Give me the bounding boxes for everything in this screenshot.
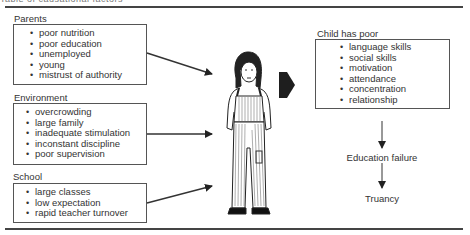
diagram-graphics xyxy=(0,0,470,235)
parents-arrow-icon xyxy=(147,53,212,74)
school-arrow-icon xyxy=(147,186,212,203)
block-arrow-icon xyxy=(279,72,295,98)
bottom-rule xyxy=(5,228,463,230)
child-figure-icon xyxy=(227,52,271,214)
